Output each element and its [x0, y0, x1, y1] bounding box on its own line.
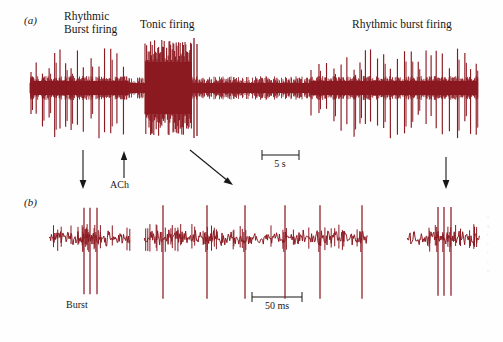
panel-b-signal — [0, 0, 503, 342]
page-edge-text-artifact: sgteien — [487, 212, 501, 316]
scale-bar-50ms-label: 50 ms — [247, 300, 307, 311]
burst-label: Burst — [66, 299, 88, 310]
figure-canvas: (a) RhythmicBurst firing Tonic firing Rh… — [0, 0, 503, 342]
